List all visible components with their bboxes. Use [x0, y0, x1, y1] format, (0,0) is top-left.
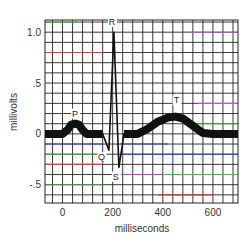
y-axis-ticks: 1.0.50-.5	[27, 27, 41, 191]
y-tick-label: .5	[33, 78, 42, 89]
wave-label-t: T	[174, 95, 180, 105]
x-tick-label: 200	[104, 207, 121, 218]
wave-label-s: S	[113, 172, 119, 182]
y-axis-label: millivolts	[8, 93, 19, 131]
ecg-trace-segment	[124, 117, 238, 134]
y-tick-label: 1.0	[27, 27, 41, 38]
x-axis-label: milliseconds	[115, 223, 169, 234]
x-tick-label: 0	[60, 207, 66, 218]
x-axis-ticks: 0200400600	[60, 207, 222, 218]
wave-label-r: R	[109, 17, 116, 27]
ecg-chart: PRQST 0200400600 1.0.50-.5 milliseconds …	[0, 0, 252, 245]
x-tick-label: 600	[205, 207, 222, 218]
wave-label-p: P	[72, 109, 78, 119]
ecg-trace-segment	[45, 124, 103, 134]
y-tick-label: 0	[35, 128, 41, 139]
y-tick-label: -.5	[29, 179, 41, 190]
wave-labels: PRQST	[71, 17, 182, 182]
wave-label-q: Q	[98, 152, 105, 162]
x-tick-label: 400	[154, 207, 171, 218]
